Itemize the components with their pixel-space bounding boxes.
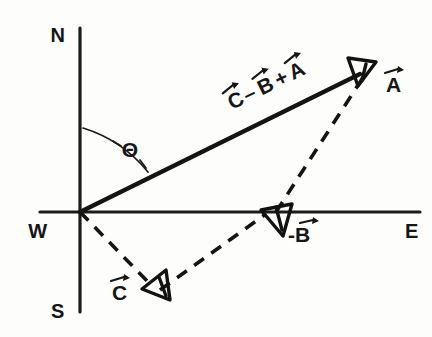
theta-arc-tick-left bbox=[113, 141, 121, 146]
vector-diagram-svg: N S W E Θ C – B + A A bbox=[0, 0, 432, 337]
axis-label-north: N bbox=[51, 24, 66, 46]
vector-a-label: A bbox=[386, 73, 401, 96]
vector-bar-minus-b-tip bbox=[312, 217, 319, 224]
label-group-a: A bbox=[385, 66, 404, 96]
vector-a-line bbox=[276, 76, 364, 212]
axis-label-east: E bbox=[405, 220, 419, 242]
theta-arc bbox=[83, 128, 148, 172]
vector-c-label: C bbox=[112, 281, 127, 304]
label-group-minus-b: -B bbox=[288, 217, 319, 246]
axis-label-south: S bbox=[51, 300, 65, 322]
axis-label-west: W bbox=[28, 220, 47, 242]
vector-bar-a-tip bbox=[397, 66, 404, 73]
vector-minus-b-line bbox=[160, 214, 266, 290]
vector-bar-minus-b bbox=[300, 220, 313, 223]
vector-c-line bbox=[80, 212, 150, 284]
arrowhead-resultant bbox=[348, 58, 376, 86]
theta-label: Θ bbox=[122, 138, 138, 161]
diagram-canvas: N S W E Θ C – B + A A bbox=[0, 0, 432, 337]
vector-bar-c-lbl-tip bbox=[123, 274, 130, 281]
label-group-c: C bbox=[111, 274, 130, 304]
vector-minus-b-label: -B bbox=[288, 223, 310, 246]
